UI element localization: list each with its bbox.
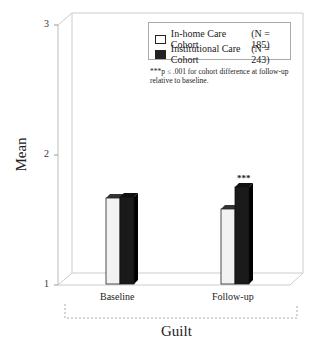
legend-n-institutional: (N = 243)	[251, 43, 290, 65]
legend-label-institutional: Institutional Care Cohort	[171, 43, 251, 65]
bar-baseline-institutional	[120, 193, 138, 284]
legend-item-institutional: Institutional Care Cohort (N = 243)	[155, 43, 290, 65]
y-tick-1: 1	[44, 278, 49, 289]
significance-stars: ***	[237, 173, 251, 183]
bar-followup-institutional	[235, 183, 253, 284]
significance-note: ***p ≤ .001 for cohort difference at fol…	[150, 67, 300, 85]
x-category-followup: Follow-up	[212, 291, 254, 302]
legend-swatch-institutional	[155, 50, 166, 59]
x-category-baseline: Baseline	[100, 291, 134, 302]
y-axis-label: Mean	[13, 137, 30, 171]
x-axis-title: Guilt	[161, 323, 192, 340]
legend: In-home Care Cohort (N = 185) Institutio…	[148, 22, 291, 60]
y-tick-2: 2	[44, 148, 49, 159]
y-tick-3: 3	[44, 18, 49, 29]
